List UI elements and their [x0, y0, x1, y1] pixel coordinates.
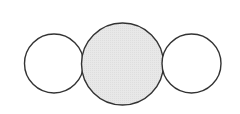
- three-circles-diagram: [0, 0, 240, 114]
- left-circle: [25, 34, 84, 93]
- right-circle: [162, 34, 221, 93]
- center-circle: [82, 23, 164, 105]
